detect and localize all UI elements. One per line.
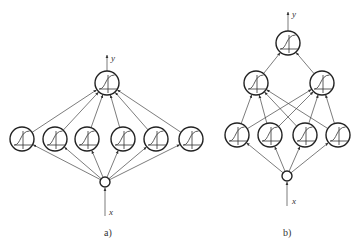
connection-arrow xyxy=(64,147,101,179)
sigmoid-neuron-node xyxy=(43,127,67,151)
connection-arrow xyxy=(291,143,328,173)
connection-arrow xyxy=(91,95,103,128)
neuron-circle xyxy=(95,71,119,95)
connection-arrow xyxy=(263,53,280,74)
neuron-circle xyxy=(179,127,203,151)
sigmoid-neuron-node xyxy=(75,127,99,151)
connection-arrow xyxy=(115,92,148,130)
sigmoid-neuron-node xyxy=(258,123,282,147)
connection-arrow xyxy=(117,90,181,132)
input-label: x xyxy=(108,207,113,217)
connection-arrow xyxy=(110,95,119,127)
connection-arrow xyxy=(63,92,98,130)
connection-arrow xyxy=(247,143,283,173)
neuron-circle xyxy=(244,71,268,95)
input-label: x xyxy=(291,196,296,206)
neuron-circle xyxy=(276,31,300,55)
sigmoid-neuron-node xyxy=(111,127,135,151)
neuron-circle xyxy=(75,127,99,151)
neuron-circle xyxy=(258,123,282,147)
connection-arrow xyxy=(107,151,118,178)
connection-arrow xyxy=(109,147,147,179)
network-diagram-b: xyb) xyxy=(225,9,350,239)
connection-arrow xyxy=(289,146,300,171)
neuron-circle xyxy=(10,127,34,151)
diagram-caption: a) xyxy=(104,227,112,239)
connection-arrow xyxy=(296,53,314,74)
neural-network-diagrams: xya) xyb) xyxy=(0,0,362,246)
input-node xyxy=(282,171,292,181)
output-label: y xyxy=(291,9,296,19)
sigmoid-neuron-node xyxy=(310,71,334,95)
connection-arrow xyxy=(241,95,252,124)
connection-arrow xyxy=(32,90,97,133)
sigmoid-neuron-node xyxy=(276,31,300,55)
connection-arrow xyxy=(92,151,103,178)
sigmoid-neuron-node xyxy=(10,127,34,151)
output-label: y xyxy=(110,53,115,63)
sigmoid-neuron-node xyxy=(326,123,350,147)
neuron-circle xyxy=(144,127,168,151)
neuron-circle xyxy=(225,123,249,147)
connection-arrow xyxy=(326,95,335,124)
connection-arrow xyxy=(267,90,328,129)
neuron-circle xyxy=(111,127,135,151)
neuron-circle xyxy=(43,127,67,151)
connection-arrow xyxy=(265,92,297,126)
neuron-circle xyxy=(310,71,334,95)
neuron-circle xyxy=(293,123,317,147)
sigmoid-neuron-node xyxy=(179,127,203,151)
sigmoid-neuron-node xyxy=(244,71,268,95)
sigmoid-neuron-node xyxy=(293,123,317,147)
diagram-caption: b) xyxy=(283,227,291,239)
neuron-circle xyxy=(326,123,350,147)
input-node xyxy=(100,177,110,187)
network-diagram-a: xya) xyxy=(10,53,203,239)
sigmoid-neuron-node xyxy=(225,123,249,147)
sigmoid-neuron-node xyxy=(95,71,119,95)
sigmoid-neuron-node xyxy=(144,127,168,151)
connection-arrow xyxy=(278,92,313,127)
